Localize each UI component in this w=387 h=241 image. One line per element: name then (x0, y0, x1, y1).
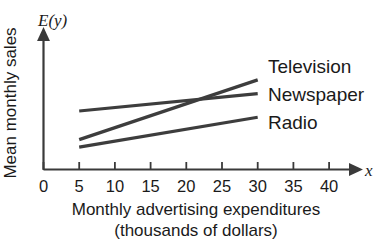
series-lines (79, 80, 258, 147)
x-tick-label-0: 0 (39, 177, 48, 195)
x-tick-label-35: 35 (284, 177, 302, 195)
series-label-television: Television (268, 56, 351, 77)
x-tick-label-10: 10 (106, 177, 124, 195)
x-axis-ticks (44, 162, 330, 169)
x-tick-label-40: 40 (320, 177, 338, 195)
x-tick-label-15: 15 (141, 177, 159, 195)
x-axis-title-line1: Monthly advertising expenditures (72, 200, 321, 219)
x-tick-label-30: 30 (249, 177, 267, 195)
y-axis-title: Mean monthly sales (1, 27, 20, 178)
x-axis-tick-labels: 0 5 10 15 20 25 30 35 40 (39, 177, 338, 195)
series-label-radio: Radio (268, 112, 318, 133)
series-label-newspaper: Newspaper (268, 84, 365, 105)
chart-canvas: E(y) x 0 5 10 15 20 25 30 35 40 (0, 0, 387, 241)
x-tick-label-25: 25 (213, 177, 231, 195)
x-tick-label-5: 5 (75, 177, 84, 195)
x-axis-title-line2: (thousands of dollars) (114, 221, 277, 240)
x-axis-variable-label: x (364, 161, 373, 180)
y-axis-variable-label: E(y) (37, 11, 68, 30)
advertising-sales-line-chart: E(y) x 0 5 10 15 20 25 30 35 40 (0, 0, 387, 241)
series-labels: Television Newspaper Radio (268, 56, 365, 133)
x-tick-label-20: 20 (177, 177, 195, 195)
